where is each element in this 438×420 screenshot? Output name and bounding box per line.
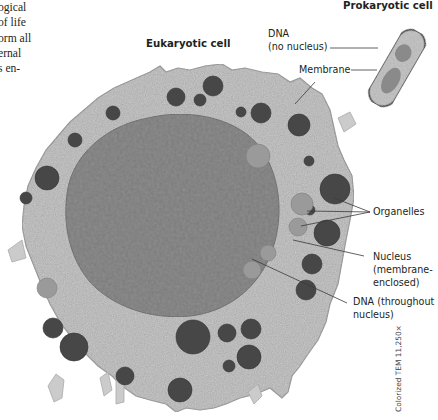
organelle bbox=[236, 107, 246, 117]
organelle bbox=[35, 166, 59, 190]
prokaryote-membrane bbox=[364, 25, 430, 112]
cell-projection bbox=[100, 372, 112, 396]
organelle bbox=[246, 144, 270, 168]
organelle bbox=[302, 254, 322, 274]
organelle bbox=[106, 106, 120, 120]
organelle bbox=[289, 218, 307, 236]
label-dna-eukaryote-line1: DNA (throughout bbox=[353, 296, 434, 308]
organelle bbox=[37, 278, 57, 298]
label-dna-eukaryote-line2: nucleus) bbox=[353, 309, 394, 321]
organelle bbox=[168, 378, 192, 402]
organelle bbox=[194, 94, 206, 106]
label-organelles: Organelles bbox=[373, 206, 425, 218]
label-nucleus-line3: enclosed) bbox=[373, 277, 420, 289]
figure-page: ogical of life orm all ernal s en- bbox=[0, 0, 438, 420]
prokaryotic-cell-title: Prokaryotic cell bbox=[343, 0, 433, 11]
label-nucleus-line2: (membrane- bbox=[373, 264, 433, 276]
organelle bbox=[43, 318, 63, 338]
nucleus bbox=[66, 114, 279, 316]
label-dna-prokaryote-line1: DNA bbox=[268, 28, 289, 40]
organelle bbox=[241, 319, 261, 339]
organelle bbox=[251, 103, 271, 123]
organelle bbox=[237, 345, 261, 369]
organelle bbox=[288, 114, 310, 136]
organelle bbox=[20, 192, 32, 204]
cell-projection bbox=[338, 112, 356, 132]
organelle bbox=[320, 174, 350, 204]
organelle bbox=[68, 133, 82, 147]
organelle bbox=[218, 324, 236, 342]
eukaryotic-cell-title: Eukaryotic cell bbox=[146, 38, 230, 49]
organelle bbox=[60, 333, 88, 361]
label-nucleus-line1: Nucleus bbox=[373, 251, 411, 263]
label-dna-prokaryote-line2: (no nucleus) bbox=[268, 41, 328, 53]
organelle bbox=[260, 245, 276, 261]
organelle bbox=[116, 367, 134, 385]
organelle bbox=[296, 280, 316, 300]
cell-projection bbox=[48, 374, 64, 402]
organelle bbox=[176, 320, 210, 354]
organelle bbox=[167, 88, 185, 106]
organelle bbox=[223, 360, 235, 372]
prokaryotic-cell bbox=[364, 25, 430, 112]
organelle bbox=[304, 156, 314, 166]
organelle bbox=[291, 193, 313, 215]
organelle bbox=[314, 220, 340, 246]
eukaryotic-cell bbox=[8, 64, 356, 412]
organelle bbox=[203, 76, 223, 96]
organelle bbox=[243, 261, 261, 279]
label-membrane: Membrane bbox=[299, 64, 350, 76]
cell-projection bbox=[8, 240, 26, 262]
micrograph-credit: Colorized TEM 11,250× bbox=[394, 325, 403, 412]
